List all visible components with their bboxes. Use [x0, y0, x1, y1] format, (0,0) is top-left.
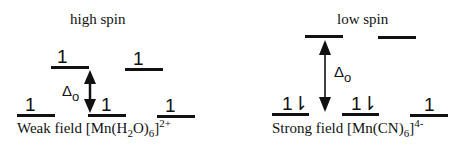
- delta-o-double-arrow-high-spin: [84, 70, 96, 113]
- splitting-arrows: [0, 0, 458, 147]
- delta-o-double-arrow-low-spin: [319, 40, 331, 112]
